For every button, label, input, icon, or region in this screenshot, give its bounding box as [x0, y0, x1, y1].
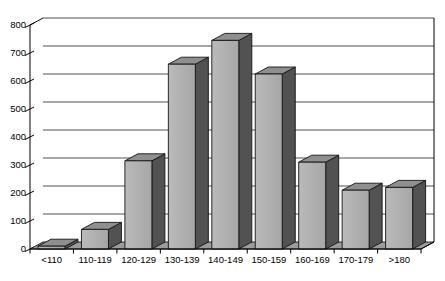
y-axis-label: 100	[10, 215, 26, 226]
bar-front	[386, 187, 413, 249]
bar-front	[299, 162, 326, 249]
bar-side	[195, 57, 208, 249]
bar-side	[413, 180, 426, 249]
bar-120-129	[125, 154, 165, 249]
bar-side	[282, 67, 295, 249]
bar-170-179	[342, 183, 382, 249]
x-axis-label: 150-159	[252, 254, 287, 265]
x-axis-label: 130-139	[165, 254, 200, 265]
chart: 0100200300400500600700800<110110-119120-…	[0, 0, 445, 281]
bar-110-119	[81, 222, 121, 249]
bar-front	[212, 40, 239, 249]
bar-140-149	[212, 33, 252, 249]
bar-chart-canvas: 0100200300400500600700800<110110-119120-…	[0, 0, 445, 281]
bar-front	[125, 161, 152, 249]
y-axis-label: 700	[10, 47, 26, 58]
y-axis-label: 600	[10, 75, 26, 86]
bar-130-139	[168, 57, 208, 249]
x-axis-label: 110-119	[78, 254, 111, 265]
bar-side	[326, 155, 339, 249]
y-axis-label: 200	[10, 187, 26, 198]
x-axis-label: 120-129	[121, 254, 156, 265]
bar-front	[81, 229, 108, 249]
bar-160-169	[299, 155, 339, 249]
bar-front	[342, 190, 369, 249]
x-axis-label: 160-169	[295, 254, 330, 265]
y-axis-label: 500	[10, 103, 26, 114]
y-axis-label: 800	[10, 19, 26, 30]
bar-side	[152, 154, 165, 249]
bar->180	[386, 180, 426, 249]
bar-front	[255, 74, 282, 249]
x-axis-label: 170-179	[338, 254, 373, 265]
x-axis-label: <110	[41, 254, 62, 265]
bar-150-159	[255, 67, 295, 249]
x-axis-label: >180	[389, 254, 410, 265]
bar-side	[369, 183, 382, 249]
bar-front	[168, 64, 195, 249]
x-axis-label: 140-149	[208, 254, 243, 265]
bar-side	[239, 33, 252, 249]
y-axis-label: 400	[10, 131, 26, 142]
y-axis-label: 300	[10, 159, 26, 170]
y-axis-label: 0	[21, 243, 26, 254]
